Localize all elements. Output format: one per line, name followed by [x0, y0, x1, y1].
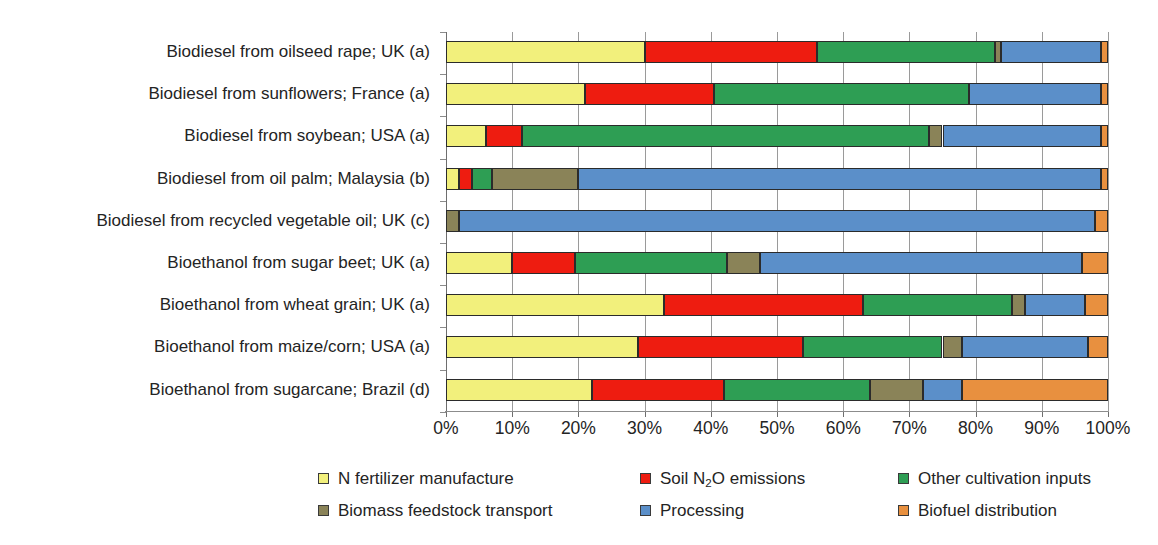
- bar-segment: [585, 83, 714, 105]
- category-label: Biodiesel from oil palm; Malaysia (b): [157, 168, 430, 190]
- bar-segment: [472, 168, 492, 190]
- bar-segment: [459, 210, 1095, 232]
- category-label: Bioethanol from sugarcane; Brazil (d): [149, 379, 430, 401]
- bar-segment: [1095, 210, 1108, 232]
- category-label: Bioethanol from sugar beet; UK (a): [167, 252, 430, 274]
- bar-segment: [929, 125, 942, 147]
- bar-segment: [446, 125, 486, 147]
- x-tickmark-70pct: [909, 412, 910, 417]
- legend-item[interactable]: N fertilizer manufacture: [318, 466, 514, 490]
- category-label: Biodiesel from recycled vegetable oil; U…: [96, 210, 430, 232]
- bar-segment: [1082, 252, 1108, 274]
- bar-segment: [714, 83, 969, 105]
- bar-row: [446, 294, 1108, 316]
- bar-segment: [446, 41, 645, 63]
- bar-segment: [760, 252, 1081, 274]
- legend-label: Other cultivation inputs: [918, 470, 1091, 487]
- x-tickmark-100pct: [1108, 412, 1109, 417]
- legend-item[interactable]: Processing: [640, 498, 744, 522]
- x-tick-label: 80%: [958, 418, 993, 439]
- bar-segment: [1012, 294, 1025, 316]
- bar-segment: [645, 41, 817, 63]
- bar-segment: [1085, 294, 1108, 316]
- bar-segment: [863, 294, 1012, 316]
- bar-segment: [446, 379, 592, 401]
- bar-segment: [1025, 294, 1085, 316]
- bar-segment: [1101, 83, 1108, 105]
- x-tickmark-30pct: [645, 412, 646, 417]
- legend-item[interactable]: Biofuel distribution: [898, 498, 1057, 522]
- legend-label: Processing: [660, 502, 744, 519]
- bar-segment: [446, 252, 512, 274]
- bar-segment: [578, 168, 1101, 190]
- x-tickmark-10pct: [512, 412, 513, 417]
- x-tick-label: 30%: [627, 418, 662, 439]
- bar-segment: [512, 252, 575, 274]
- bar-row: [446, 252, 1108, 274]
- bar-segment: [1101, 41, 1108, 63]
- bar-segment: [962, 336, 1088, 358]
- bar-segment: [575, 252, 727, 274]
- x-tick-label: 100%: [1086, 418, 1131, 439]
- x-tickmark-50pct: [777, 412, 778, 417]
- x-tick-label: 50%: [759, 418, 794, 439]
- legend-item[interactable]: Biomass feedstock transport: [318, 498, 552, 522]
- bar-segment: [592, 379, 724, 401]
- legend-item[interactable]: Other cultivation inputs: [898, 466, 1091, 490]
- legend-swatch-icon: [640, 505, 651, 516]
- bar-segment: [446, 294, 664, 316]
- category-axis-labels: Biodiesel from oilseed rape; UK (a)Biodi…: [0, 32, 438, 412]
- bar-segment: [459, 168, 472, 190]
- chart-legend: N fertilizer manufactureSoil N2O emissio…: [318, 466, 1118, 528]
- legend-label: N fertilizer manufacture: [338, 470, 514, 487]
- bar-row: [446, 336, 1108, 358]
- gridline-100pct: [1108, 32, 1109, 412]
- x-tick-label: 40%: [693, 418, 728, 439]
- bar-segment: [492, 168, 578, 190]
- bar-segment: [664, 294, 863, 316]
- bar-row: [446, 210, 1108, 232]
- category-label: Biodiesel from sunflowers; France (a): [148, 83, 430, 105]
- bar-segment: [1101, 168, 1108, 190]
- x-tickmark-0pct: [446, 412, 447, 417]
- legend-swatch-icon: [318, 473, 329, 484]
- bar-segment: [969, 83, 1101, 105]
- bar-segment: [817, 41, 996, 63]
- legend-swatch-icon: [898, 505, 909, 516]
- bar-segment: [522, 125, 929, 147]
- bar-row: [446, 83, 1108, 105]
- x-tick-label: 20%: [561, 418, 596, 439]
- x-tickmark-90pct: [1042, 412, 1043, 417]
- x-tickmark-80pct: [976, 412, 977, 417]
- category-label: Biodiesel from soybean; USA (a): [184, 125, 430, 147]
- legend-item[interactable]: Soil N2O emissions: [640, 466, 805, 490]
- x-tick-label: 10%: [495, 418, 530, 439]
- bar-segment: [1001, 41, 1102, 63]
- category-label: Biodiesel from oilseed rape; UK (a): [166, 41, 430, 63]
- bar-segment: [727, 252, 760, 274]
- bar-segment: [446, 83, 585, 105]
- x-axis-tick-labels: 0%10%20%30%40%50%60%70%80%90%100%: [0, 418, 1158, 444]
- bar-row: [446, 379, 1108, 401]
- plot-area: [446, 32, 1108, 412]
- x-tick-label: 90%: [1024, 418, 1059, 439]
- bar-row: [446, 168, 1108, 190]
- bar-segment: [638, 336, 804, 358]
- category-label: Bioethanol from maize/corn; USA (a): [154, 336, 430, 358]
- x-tick-label: 70%: [892, 418, 927, 439]
- legend-swatch-icon: [640, 473, 651, 484]
- x-tickmark-40pct: [711, 412, 712, 417]
- bar-row: [446, 41, 1108, 63]
- legend-label: Biofuel distribution: [918, 502, 1057, 519]
- bar-segment: [1088, 336, 1108, 358]
- bar-segment: [446, 336, 638, 358]
- x-tickmark-60pct: [843, 412, 844, 417]
- bar-segment: [1101, 125, 1108, 147]
- legend-swatch-icon: [898, 473, 909, 484]
- bar-segment: [870, 379, 923, 401]
- x-tick-label: 0%: [433, 418, 458, 439]
- legend-swatch-icon: [318, 505, 329, 516]
- bar-segment: [943, 336, 963, 358]
- legend-label: Biomass feedstock transport: [338, 502, 552, 519]
- x-tick-label: 60%: [826, 418, 861, 439]
